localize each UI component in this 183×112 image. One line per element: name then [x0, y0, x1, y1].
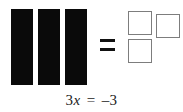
equation-relation: =	[87, 92, 96, 108]
variable-tile-1	[11, 9, 33, 85]
unit-tile-2	[156, 14, 180, 38]
equation-value: –3	[102, 92, 118, 108]
equation-variable: x	[73, 92, 80, 108]
unit-tile-3	[128, 39, 152, 63]
equals-sign	[100, 39, 115, 51]
unit-tile-1	[128, 11, 152, 35]
variable-tile-2	[38, 9, 60, 85]
algebra-tile-figure: 3x = –3	[0, 0, 183, 112]
equals-sign-stroke-bottom	[100, 48, 115, 51]
variable-tile-3	[65, 9, 87, 85]
equals-sign-stroke-top	[100, 39, 115, 42]
equation-caption: 3x = –3	[0, 92, 183, 109]
